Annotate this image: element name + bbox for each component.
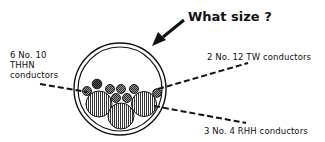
thhn-conductor [106,85,115,94]
rhh-label: 3 No. 4 RHH conductors [204,127,308,137]
tw-label: 2 No. 12 TW conductors [207,53,311,63]
question-label: What size ? [188,10,272,24]
tw-conductor [153,89,162,98]
tw-conductor [92,79,102,89]
arrow-icon [152,20,184,46]
thhn-label-line3: conductors [10,71,58,81]
rhh-conductor [132,92,157,117]
leader-rhh [154,106,246,123]
thhn-conductor [123,94,132,103]
leader-tw [158,63,248,89]
thhn-conductor [130,85,139,94]
rhh-conductor [108,103,134,129]
thhn-conductor [117,85,126,94]
thhn-conductor [112,94,121,103]
conduit-fill-diagram: What size ? 6 No. 10 THHN conductors 2 N… [0,0,325,142]
